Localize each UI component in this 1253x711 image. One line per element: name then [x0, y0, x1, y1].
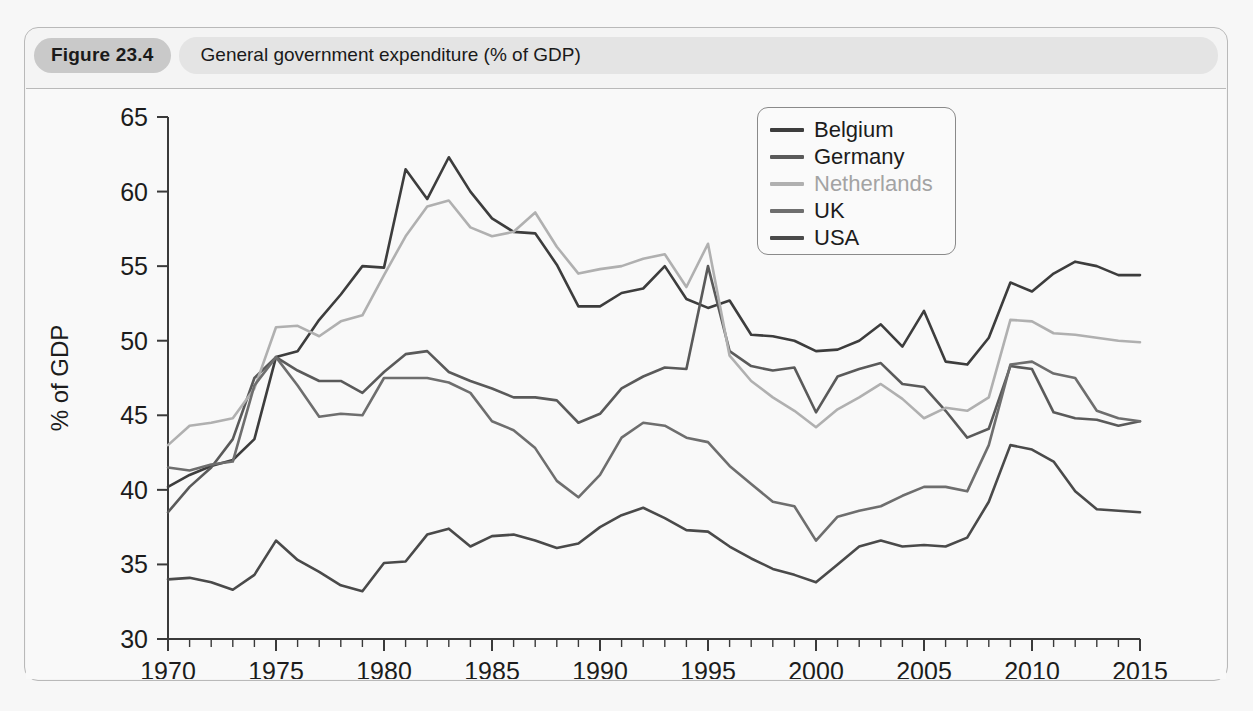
svg-text:65: 65: [120, 103, 148, 131]
series-line-belgium: [168, 157, 1140, 487]
svg-text:% of GDP: % of GDP: [46, 325, 73, 432]
legend-item-belgium[interactable]: Belgium: [770, 117, 943, 143]
line-chart: 3035404550556065197019751980198519901995…: [26, 89, 1226, 679]
legend-item-uk[interactable]: UK: [770, 198, 943, 224]
figure-title: General government expenditure (% of GDP…: [179, 37, 1218, 74]
series-line-usa: [168, 445, 1140, 591]
legend-item-label: USA: [814, 225, 859, 251]
svg-text:2015: 2015: [1112, 657, 1168, 679]
figure-root: Figure 23.4 General government expenditu…: [0, 0, 1253, 711]
chart-plot-area: 3035404550556065197019751980198519901995…: [26, 89, 1226, 679]
svg-text:40: 40: [120, 476, 148, 504]
legend-item-usa[interactable]: USA: [770, 225, 943, 251]
svg-text:60: 60: [120, 178, 148, 206]
figure-number-badge: Figure 23.4: [34, 38, 171, 73]
svg-text:35: 35: [120, 550, 148, 578]
svg-text:1980: 1980: [356, 657, 412, 679]
svg-text:30: 30: [120, 625, 148, 653]
svg-text:45: 45: [120, 401, 148, 429]
legend-swatch-icon: [770, 128, 804, 132]
svg-text:55: 55: [120, 252, 148, 280]
legend-item-label: Belgium: [814, 117, 893, 143]
legend-swatch-icon: [770, 182, 804, 186]
figure-header: Figure 23.4 General government expenditu…: [34, 37, 1218, 73]
legend-swatch-icon: [770, 209, 804, 213]
svg-text:1995: 1995: [680, 657, 736, 679]
svg-text:1985: 1985: [464, 657, 520, 679]
svg-text:1970: 1970: [140, 657, 196, 679]
legend-swatch-icon: [770, 155, 804, 159]
svg-text:1975: 1975: [248, 657, 304, 679]
legend-item-netherlands[interactable]: Netherlands: [770, 171, 943, 197]
svg-text:1990: 1990: [572, 657, 628, 679]
svg-text:2010: 2010: [1004, 657, 1060, 679]
svg-text:2000: 2000: [788, 657, 844, 679]
series-line-germany: [168, 266, 1140, 512]
legend-item-germany[interactable]: Germany: [770, 144, 943, 170]
svg-text:2005: 2005: [896, 657, 952, 679]
svg-text:50: 50: [120, 327, 148, 355]
chart-legend: BelgiumGermanyNetherlandsUKUSA: [757, 107, 956, 255]
legend-swatch-icon: [770, 236, 804, 240]
legend-item-label: UK: [814, 198, 845, 224]
legend-item-label: Germany: [814, 144, 904, 170]
legend-item-label: Netherlands: [814, 171, 933, 197]
